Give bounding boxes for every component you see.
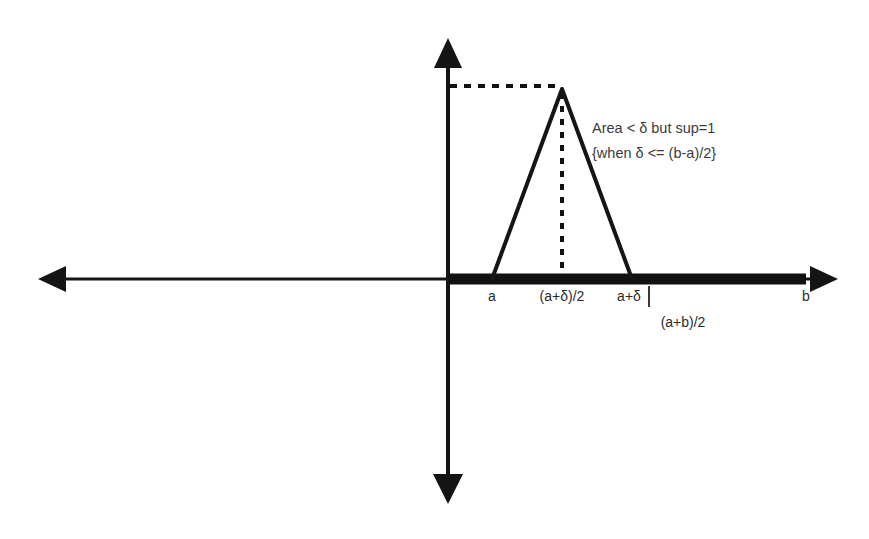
axis-label-midpoint-a-delta: (a+δ)/2 bbox=[540, 288, 585, 304]
axis-label-a-plus-delta: a+δ bbox=[617, 288, 641, 304]
x-axis-left-arrowhead bbox=[38, 266, 66, 292]
axis-label-a: a bbox=[488, 288, 496, 304]
bump-function-figure: a (a+δ)/2 a+δ (a+b)/2 b Area < δ but sup… bbox=[0, 0, 869, 539]
x-axis-right-arrowhead bbox=[810, 266, 838, 292]
math-diagram-canvas: a (a+δ)/2 a+δ (a+b)/2 b Area < δ but sup… bbox=[0, 0, 869, 539]
y-axis-down-arrowhead bbox=[433, 474, 463, 504]
annotation-line-2: {when δ <= (b-a)/2} bbox=[592, 145, 716, 161]
axis-label-b: b bbox=[802, 288, 810, 304]
axis-label-midpoint-a-b: (a+b)/2 bbox=[661, 314, 706, 330]
annotation-line-1: Area < δ but sup=1 bbox=[592, 120, 715, 136]
y-axis-up-arrowhead bbox=[434, 38, 462, 68]
